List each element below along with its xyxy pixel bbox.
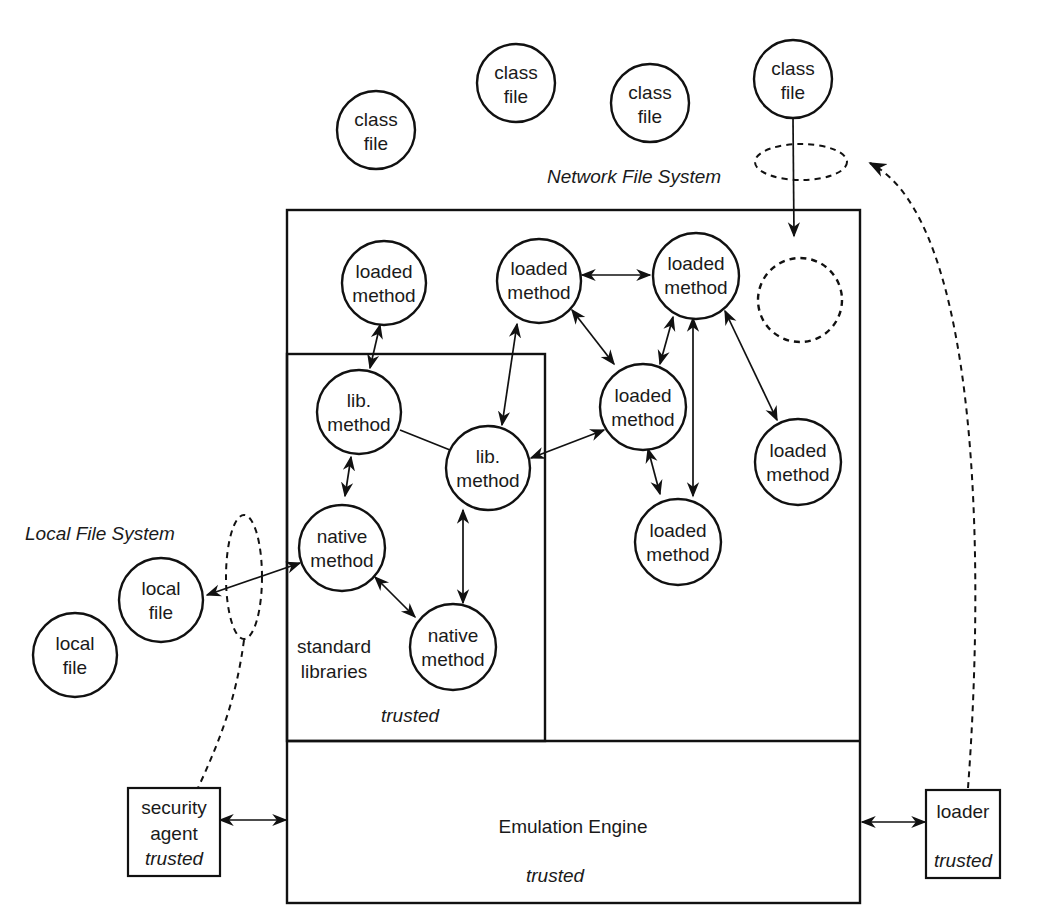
svg-text:method: method	[327, 414, 390, 435]
local-filter-ellipse	[226, 515, 262, 639]
svg-text:method: method	[310, 550, 373, 571]
loaded-method-node: loaded method	[342, 241, 426, 325]
svg-text:file: file	[781, 82, 805, 103]
svg-text:file: file	[149, 602, 173, 623]
lib-method-node: lib. method	[317, 370, 401, 454]
svg-text:trusted: trusted	[934, 850, 994, 871]
loaded-method-node: loaded method	[635, 499, 721, 585]
class-file-node: class file	[477, 44, 555, 122]
svg-text:local: local	[141, 578, 180, 599]
svg-text:lib.: lib.	[476, 446, 500, 467]
svg-text:method: method	[456, 470, 519, 491]
native-method-node: native method	[410, 604, 496, 690]
svg-text:file: file	[63, 657, 87, 678]
class-file-node: class file	[754, 40, 832, 118]
svg-text:loaded: loaded	[355, 261, 412, 282]
standard-libraries-label-2: libraries	[301, 661, 368, 682]
svg-text:method: method	[664, 277, 727, 298]
svg-text:trusted: trusted	[145, 848, 205, 869]
standard-libraries-label: standard	[297, 636, 371, 657]
svg-text:file: file	[638, 106, 662, 127]
java-security-architecture-diagram: class file class file class file class f…	[0, 0, 1048, 921]
svg-text:file: file	[504, 86, 528, 107]
network-filter-ellipse	[755, 144, 847, 180]
svg-text:class: class	[354, 109, 397, 130]
loaded-method-node: loaded method	[755, 419, 841, 505]
lib-method-node: lib. method	[446, 426, 530, 510]
svg-text:method: method	[352, 285, 415, 306]
security-agent-box: security agent trusted	[128, 788, 220, 876]
loader-to-network-dashed-arrow	[870, 163, 975, 788]
security-agent-dashed-link	[198, 640, 244, 788]
class-file-node: class file	[611, 64, 689, 142]
loaded-method-node: loaded method	[497, 239, 581, 323]
svg-text:loaded: loaded	[667, 253, 724, 274]
svg-text:class: class	[771, 58, 814, 79]
svg-text:method: method	[646, 544, 709, 565]
local-file-system-label: Local File System	[25, 523, 175, 544]
svg-text:local: local	[55, 633, 94, 654]
loader-box: loader trusted	[926, 790, 1000, 878]
svg-text:security: security	[141, 797, 207, 818]
network-file-system-label: Network File System	[547, 166, 721, 187]
svg-text:class: class	[628, 82, 671, 103]
local-file-node: local file	[119, 558, 203, 642]
svg-text:file: file	[364, 133, 388, 154]
svg-text:native: native	[428, 625, 479, 646]
svg-text:method: method	[766, 464, 829, 485]
pending-class-placeholder	[758, 258, 842, 342]
loaded-method-node: loaded method	[600, 364, 686, 450]
svg-text:method: method	[421, 649, 484, 670]
loaded-method-node: loaded method	[653, 233, 739, 319]
local-file-node: local file	[33, 613, 117, 697]
emulation-engine-label: Emulation Engine	[499, 816, 648, 837]
native-method-node: native method	[299, 505, 385, 591]
emulation-engine-trusted: trusted	[526, 865, 586, 886]
svg-text:method: method	[507, 282, 570, 303]
svg-text:loaded: loaded	[769, 440, 826, 461]
standard-libraries-trusted: trusted	[381, 705, 441, 726]
svg-text:lib.: lib.	[347, 390, 371, 411]
svg-text:class: class	[494, 62, 537, 83]
svg-text:agent: agent	[150, 823, 198, 844]
svg-text:loaded: loaded	[614, 385, 671, 406]
svg-text:loaded: loaded	[649, 520, 706, 541]
svg-text:loader: loader	[937, 801, 990, 822]
svg-text:method: method	[611, 409, 674, 430]
svg-text:native: native	[317, 526, 368, 547]
class-file-node: class file	[337, 91, 415, 169]
svg-text:loaded: loaded	[510, 258, 567, 279]
